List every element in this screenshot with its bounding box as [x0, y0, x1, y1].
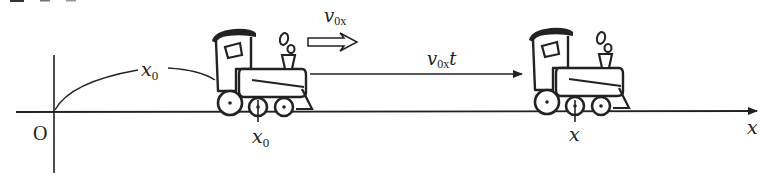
origin-label: O	[33, 122, 47, 144]
initial-position-label: x0	[141, 58, 158, 83]
train-final	[529, 28, 629, 115]
x-axis	[16, 111, 757, 112]
initial-tick-label: x0	[252, 125, 269, 150]
displacement-label: v0xt	[427, 48, 457, 71]
header-fragment	[10, 0, 76, 2]
train-initial	[212, 29, 312, 116]
axis-label: x	[747, 116, 758, 138]
kinematics-diagram: O x x0 x0 v0x v0xt	[0, 0, 775, 182]
velocity-arrow-icon	[308, 33, 357, 51]
x0-distance-curve	[55, 70, 138, 110]
x0-distance-curve-right	[168, 68, 215, 80]
velocity-label: v0x	[324, 5, 346, 28]
final-tick-label: x	[569, 123, 580, 145]
